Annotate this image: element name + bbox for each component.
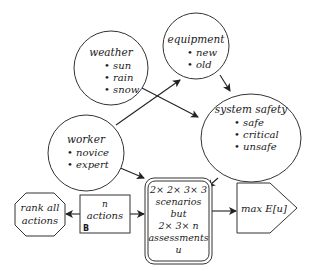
weather-item: • sun xyxy=(104,60,131,71)
node-n-actions[interactable]: n actions B xyxy=(80,195,130,233)
scenarios-line: assessments xyxy=(148,232,208,243)
node-equipment[interactable]: equipment • new • old xyxy=(163,13,229,79)
bullet-icon: • xyxy=(234,129,240,140)
scenarios-line: u xyxy=(175,244,181,255)
node-weather[interactable]: weather • sun • rain • snow xyxy=(74,31,148,105)
system-safety-item: • critical xyxy=(234,129,279,140)
edge-equipment-system-safety xyxy=(220,75,230,91)
node-max-expected-utility[interactable]: max E[u] xyxy=(237,183,297,233)
edge-weather-system-safety xyxy=(142,88,198,117)
bullet-icon: • xyxy=(234,141,240,152)
actions-label-line2: actions xyxy=(87,210,123,221)
bullet-icon: • xyxy=(234,117,240,128)
actions-badge: B xyxy=(83,224,89,233)
worker-item: • expert xyxy=(67,159,110,170)
equipment-title: equipment xyxy=(168,33,226,45)
scenarios-line: but xyxy=(170,208,186,219)
equipment-item: • new xyxy=(187,47,217,58)
bullet-icon: • xyxy=(187,59,193,70)
rank-label-line1: rank all xyxy=(21,202,60,213)
influence-diagram: weather • sun • rain • snow equipment • … xyxy=(0,0,310,271)
system-safety-item: • unsafe xyxy=(234,141,277,152)
weather-item: • rain xyxy=(104,72,133,83)
scenarios-line: 2× 3× n xyxy=(157,220,198,231)
utility-label: max E[u] xyxy=(241,203,287,214)
scenarios-line: 2× 2× 3× 3 xyxy=(149,184,207,195)
node-rank-all-actions[interactable]: rank all actions xyxy=(15,193,65,236)
bullet-icon: • xyxy=(67,159,73,170)
bullet-icon: • xyxy=(104,72,110,83)
equipment-item: • old xyxy=(187,59,212,70)
scenarios-line: scenarios xyxy=(156,196,202,207)
system-safety-title: system safety xyxy=(215,103,288,115)
bullet-icon: • xyxy=(187,47,193,58)
node-scenarios[interactable]: 2× 2× 3× 3 scenarios but 2× 3× n assessm… xyxy=(145,178,212,264)
node-worker[interactable]: worker • novice • expert xyxy=(48,115,124,191)
worker-item: • novice xyxy=(67,147,109,158)
actions-label-line1: n xyxy=(102,199,108,209)
weather-title: weather xyxy=(89,46,134,58)
rank-label-line2: actions xyxy=(22,215,58,226)
bullet-icon: • xyxy=(104,60,110,71)
bullet-icon: • xyxy=(104,84,110,95)
system-safety-item: • safe xyxy=(234,117,264,128)
bullet-icon: • xyxy=(67,147,73,158)
edge-worker-scenarios xyxy=(118,167,144,178)
weather-item: • snow xyxy=(104,84,140,95)
node-system-safety[interactable]: system safety • safe • critical • unsafe xyxy=(201,94,301,182)
worker-title: worker xyxy=(67,133,106,145)
